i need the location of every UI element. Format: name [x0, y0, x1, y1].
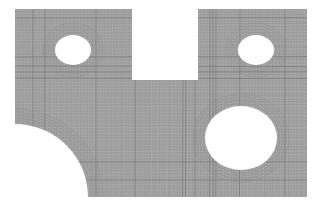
- mesh-diagram: [0, 0, 323, 208]
- small-hole-left: [55, 35, 91, 65]
- small-hole-right: [238, 35, 274, 65]
- large-hole: [205, 106, 277, 170]
